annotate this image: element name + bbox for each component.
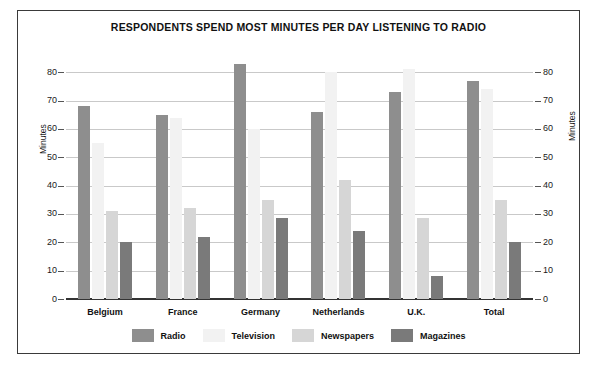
y-tick-mark-right <box>535 72 541 73</box>
y-tick-mark-right <box>535 186 541 187</box>
bar-radio-france <box>156 115 168 299</box>
bar-newspapers-france <box>184 208 196 299</box>
bar-newspapers-uk <box>417 218 429 299</box>
bar-magazines-belgium <box>120 242 132 299</box>
bar-newspapers-germany <box>262 200 274 299</box>
bar-group <box>66 58 144 299</box>
bar-magazines-total <box>509 242 521 299</box>
bar-group <box>222 58 300 299</box>
chart-title: RESPONDENTS SPEND MOST MINUTES PER DAY L… <box>18 21 579 33</box>
y-tick-label-left: 30 <box>31 209 57 218</box>
y-tick-mark-right <box>535 271 541 272</box>
y-tick-label-right: 60 <box>543 124 569 133</box>
bar-newspapers-total <box>495 200 507 299</box>
y-tick-mark-left <box>58 72 64 73</box>
y-tick-label-right: 30 <box>543 209 569 218</box>
category-label-netherlands: Netherlands <box>300 307 378 317</box>
bar-magazines-netherlands <box>353 231 365 299</box>
legend-swatch-newspapers <box>292 329 314 342</box>
y-tick-mark-right <box>535 129 541 130</box>
legend-label-radio: Radio <box>161 331 186 341</box>
legend-swatch-television <box>203 329 225 342</box>
y-tick-mark-right <box>535 299 541 300</box>
bar-television-france <box>170 118 182 299</box>
y-tick-label-left: 80 <box>31 68 57 77</box>
y-tick-label-right: 50 <box>543 153 569 162</box>
bar-group <box>300 58 378 299</box>
category-label-uk: U.K. <box>377 307 455 317</box>
y-tick-mark-left <box>58 299 64 300</box>
y-tick-mark-left <box>58 129 64 130</box>
category-label-france: France <box>144 307 222 317</box>
bar-magazines-france <box>198 237 210 299</box>
legend-label-television: Television <box>232 331 275 341</box>
legend-item-newspapers[interactable]: Newspapers <box>292 329 374 342</box>
y-tick-mark-left <box>58 242 64 243</box>
bar-television-belgium <box>92 143 104 299</box>
y-tick-label-left: 10 <box>31 266 57 275</box>
y-tick-label-left: 60 <box>31 124 57 133</box>
y-tick-label-right: 10 <box>543 266 569 275</box>
bar-radio-uk <box>389 92 401 299</box>
plot-area: 0010102020303040405050606070708080 <box>66 58 533 299</box>
category-label-germany: Germany <box>222 307 300 317</box>
bar-radio-germany <box>234 64 246 299</box>
legend-swatch-radio <box>132 329 154 342</box>
legend-swatch-magazines <box>391 329 413 342</box>
legend-item-television[interactable]: Television <box>203 329 275 342</box>
y-tick-label-right: 80 <box>543 68 569 77</box>
y-tick-mark-right <box>535 101 541 102</box>
bar-group <box>377 58 455 299</box>
y-tick-label-left: 20 <box>31 238 57 247</box>
y-tick-mark-left <box>58 271 64 272</box>
y-tick-mark-left <box>58 214 64 215</box>
chart-card: RESPONDENTS SPEND MOST MINUTES PER DAY L… <box>17 10 580 354</box>
y-tick-mark-left <box>58 186 64 187</box>
bar-newspapers-belgium <box>106 211 118 299</box>
bar-radio-total <box>467 81 479 299</box>
y-tick-mark-right <box>535 214 541 215</box>
y-tick-label-left: 40 <box>31 181 57 190</box>
y-tick-label-right: 40 <box>543 181 569 190</box>
bar-television-netherlands <box>325 72 337 299</box>
category-label-total: Total <box>455 307 533 317</box>
y-tick-label-right: 20 <box>543 238 569 247</box>
y-tick-mark-left <box>58 101 64 102</box>
chart-legend: RadioTelevisionNewspapersMagazines <box>18 329 579 342</box>
y-tick-label-left: 50 <box>31 153 57 162</box>
legend-item-radio[interactable]: Radio <box>132 329 186 342</box>
chart-page: RESPONDENTS SPEND MOST MINUTES PER DAY L… <box>0 0 597 368</box>
bar-television-total <box>481 89 493 299</box>
bar-radio-netherlands <box>311 112 323 299</box>
bar-radio-belgium <box>78 106 90 299</box>
y-tick-label-left: 70 <box>31 96 57 105</box>
bar-television-germany <box>248 129 260 299</box>
bar-group <box>455 58 533 299</box>
category-label-belgium: Belgium <box>66 307 144 317</box>
bar-groups <box>66 58 533 299</box>
legend-item-magazines[interactable]: Magazines <box>391 329 466 342</box>
y-tick-label-right: 0 <box>543 295 569 304</box>
bar-magazines-uk <box>431 276 443 299</box>
bar-newspapers-netherlands <box>339 180 351 299</box>
y-tick-mark-left <box>58 157 64 158</box>
legend-label-magazines: Magazines <box>420 331 466 341</box>
y-tick-mark-right <box>535 242 541 243</box>
bar-group <box>144 58 222 299</box>
y-tick-label-right: 70 <box>543 96 569 105</box>
legend-label-newspapers: Newspapers <box>321 331 374 341</box>
y-tick-mark-right <box>535 157 541 158</box>
y-tick-label-left: 0 <box>31 295 57 304</box>
bar-television-uk <box>403 69 415 299</box>
bar-magazines-germany <box>276 218 288 299</box>
